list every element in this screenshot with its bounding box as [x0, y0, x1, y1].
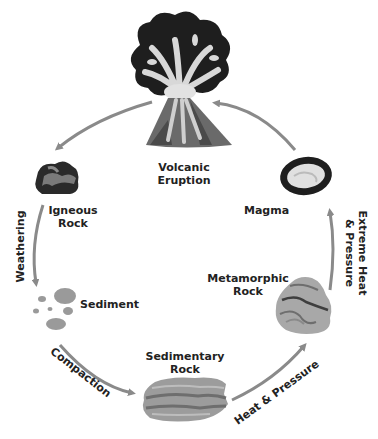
label-sedimentary-rock: Sedimentary Rock — [140, 350, 230, 376]
label-magma: Magma — [244, 204, 289, 217]
label-line: Sediment — [80, 298, 139, 311]
label-line: Extreme Heat — [356, 211, 369, 296]
volcano-icon — [131, 11, 232, 147]
rock-cycle-diagram: Volcanic Eruption Igneous Rock Sediment … — [0, 0, 378, 439]
sedimentary-rock-icon — [143, 378, 228, 422]
label-line: Sedimentary — [140, 350, 230, 363]
magma-icon — [278, 154, 335, 199]
label-volcanic-eruption: Volcanic Eruption — [154, 161, 214, 187]
igneous-rock-icon — [35, 161, 78, 194]
label-line: Metamorphic — [206, 272, 290, 285]
arrow-volcano-to-igneous — [58, 102, 152, 148]
label-line: Magma — [244, 204, 289, 217]
label-line: Volcanic — [154, 161, 214, 174]
label-line: Eruption — [154, 174, 214, 187]
label-igneous-rock: Igneous Rock — [47, 204, 99, 230]
label-line: Rock — [47, 217, 99, 230]
process-weathering: Weathering — [14, 210, 27, 282]
label-metamorphic-rock: Metamorphic Rock — [206, 272, 290, 298]
arrow-igneous-to-sediment — [34, 205, 43, 283]
arrow-metamorphic-to-magma — [330, 212, 333, 290]
label-line: Igneous — [47, 204, 99, 217]
process-extreme-heat-pressure: Extreme Heat & Pressure — [343, 211, 369, 296]
sediment-pebbles-icon — [33, 288, 76, 330]
label-line: Rock — [206, 285, 290, 298]
label-sediment: Sediment — [80, 298, 139, 311]
label-line: & Pressure — [343, 211, 356, 296]
label-line: Rock — [140, 363, 230, 376]
